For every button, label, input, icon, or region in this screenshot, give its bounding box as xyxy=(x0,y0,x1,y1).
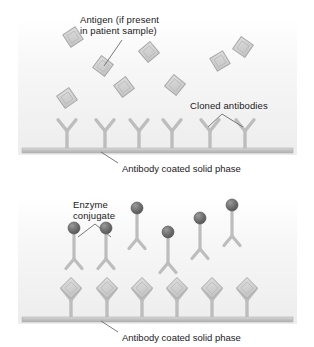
cloned-antibodies-label: Cloned antibodies xyxy=(190,100,268,111)
panel-detection-step xyxy=(18,196,297,324)
panel-capture-step xyxy=(18,18,297,155)
solid-phase-caption-bottom: Antibody coated solid phase xyxy=(122,332,241,343)
antigen-label: Antigen (if present in patient sample) xyxy=(80,14,159,36)
enzyme-conjugate-label: Enzyme conjugate xyxy=(73,199,115,221)
elisa-diagram: Antigen (if present in patient sample) C… xyxy=(0,0,314,347)
solid-phase-caption-top: Antibody coated solid phase xyxy=(122,163,241,174)
